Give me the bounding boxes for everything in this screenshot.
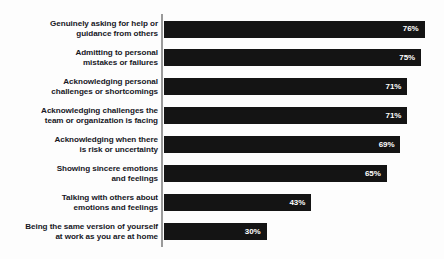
bar-value-label: 71% bbox=[386, 83, 402, 91]
bar-row: Acknowledging personal challenges or sho… bbox=[0, 78, 444, 95]
category-label: Talking with others about emotions and f… bbox=[0, 193, 158, 212]
category-label: Genuinely asking for help or guidance fr… bbox=[0, 19, 158, 38]
bar-value-label: 30% bbox=[245, 228, 261, 236]
category-label: Acknowledging when there is risk or unce… bbox=[0, 135, 158, 154]
plot-area: Genuinely asking for help or guidance fr… bbox=[0, 0, 444, 259]
category-label: Admitting to personal mistakes or failur… bbox=[0, 48, 158, 67]
bar: 75% bbox=[164, 49, 422, 66]
bar-value-label: 69% bbox=[379, 141, 395, 149]
bar: 30% bbox=[164, 223, 267, 240]
bar-row: Talking with others about emotions and f… bbox=[0, 194, 444, 211]
bar-track: 76% bbox=[164, 21, 425, 38]
bar-row: Being the same version of yourself at wo… bbox=[0, 223, 444, 240]
bar-track: 71% bbox=[164, 78, 408, 95]
bar-track: 75% bbox=[164, 49, 422, 66]
bar-value-label: 75% bbox=[399, 54, 415, 62]
bar-row: Acknowledging challenges the team or org… bbox=[0, 107, 444, 124]
category-label: Showing sincere emotions and feelings bbox=[0, 164, 158, 183]
bar-value-label: 71% bbox=[386, 112, 402, 120]
bar-row: Genuinely asking for help or guidance fr… bbox=[0, 21, 444, 38]
category-label: Being the same version of yourself at wo… bbox=[0, 222, 158, 241]
bar: 69% bbox=[164, 136, 401, 153]
horizontal-bar-chart: Genuinely asking for help or guidance fr… bbox=[0, 0, 444, 259]
bar-row: Showing sincere emotions and feelings65% bbox=[0, 165, 444, 182]
bar: 76% bbox=[164, 21, 425, 38]
bar: 71% bbox=[164, 78, 408, 95]
bar: 71% bbox=[164, 107, 408, 124]
bar: 65% bbox=[164, 165, 387, 182]
bar-value-label: 76% bbox=[403, 25, 419, 33]
bar-track: 43% bbox=[164, 194, 312, 211]
bar: 43% bbox=[164, 194, 312, 211]
bar-track: 30% bbox=[164, 223, 267, 240]
bar-row: Acknowledging when there is risk or unce… bbox=[0, 136, 444, 153]
bar-track: 71% bbox=[164, 107, 408, 124]
category-label: Acknowledging challenges the team or org… bbox=[0, 106, 158, 125]
bar-track: 69% bbox=[164, 136, 401, 153]
bar-row: Admitting to personal mistakes or failur… bbox=[0, 49, 444, 66]
bar-track: 65% bbox=[164, 165, 387, 182]
bar-value-label: 65% bbox=[365, 170, 381, 178]
bar-value-label: 43% bbox=[289, 199, 305, 207]
category-label: Acknowledging personal challenges or sho… bbox=[0, 77, 158, 96]
